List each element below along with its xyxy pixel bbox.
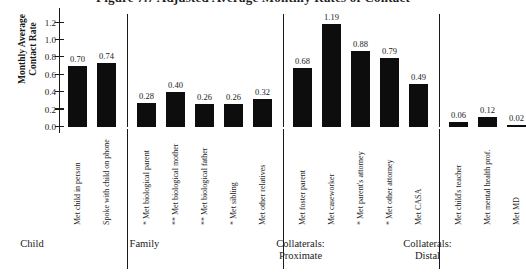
- group-caption: Collaterals: Distal: [368, 238, 488, 262]
- category-label: *Met other attorney: [385, 159, 394, 225]
- y-axis-tick-label: 1.0: [45, 35, 56, 45]
- category-label: Met MD: [512, 197, 521, 225]
- bar: [351, 51, 370, 127]
- significance-marker: *: [142, 221, 151, 225]
- bar-value-label: 0.06: [451, 110, 466, 120]
- significance-marker: **: [200, 217, 209, 225]
- bar: [166, 92, 185, 127]
- bar: [478, 117, 497, 127]
- bar: [293, 68, 312, 127]
- figure-title-strip: Figure 7.7 Adjusted Average Monthly Rate…: [0, 0, 512, 9]
- bar: [97, 63, 116, 127]
- category-label: **Met biological father: [200, 147, 209, 225]
- y-axis-tick-label: 0.6: [45, 70, 56, 80]
- category-label-text: Met biological mother: [171, 143, 180, 215]
- y-axis-tick: [55, 22, 64, 23]
- bar: [253, 99, 272, 127]
- bar-value-label: 0.49: [411, 72, 426, 82]
- category-label: *Met biological parent: [142, 150, 151, 225]
- group-separator: [127, 129, 128, 269]
- bar: [380, 58, 399, 127]
- y-axis-tick-label: 0.4: [45, 87, 56, 97]
- y-axis-tick: [55, 74, 64, 75]
- category-label-text: Met mental health prof.: [483, 149, 492, 225]
- category-label: **Met biological mother: [171, 143, 180, 225]
- group-caption: Family: [85, 238, 205, 250]
- bar-value-label: 1.19: [324, 12, 339, 22]
- significance-marker: *: [229, 221, 238, 225]
- y-axis-tick-label: 0.8: [45, 52, 56, 62]
- y-axis-label: Monthly Average Contact Rate: [17, 0, 39, 109]
- bar-value-label: 0.28: [139, 91, 154, 101]
- bar: [409, 84, 428, 127]
- bar-value-label: 0.32: [255, 87, 270, 97]
- bar: [68, 66, 87, 127]
- bar-value-label: 0.88: [353, 39, 368, 49]
- category-label: Met mental health prof.: [483, 149, 492, 225]
- y-axis-line: [59, 8, 60, 133]
- category-label-text: Met biological father: [200, 147, 209, 215]
- bar-value-label: 0.40: [168, 80, 183, 90]
- group-caption: Child: [0, 238, 92, 250]
- bar-value-label: 0.12: [480, 105, 495, 115]
- category-label-text: Met parent's attorney: [356, 151, 365, 219]
- category-label: Met foster parent: [298, 170, 307, 225]
- category-label: *Met parent's attorney: [356, 151, 365, 225]
- bar: [195, 104, 214, 127]
- group-separator: [127, 14, 128, 127]
- y-axis-tick-label: 0.0: [45, 122, 56, 132]
- bar-value-label: 0.79: [382, 46, 397, 56]
- bar-value-label: 0.68: [295, 56, 310, 66]
- bar-value-label: 0.26: [197, 92, 212, 102]
- category-label-text: Met MD: [512, 197, 521, 225]
- bar-value-label: 0.74: [99, 51, 114, 61]
- category-label: *Met sibling: [229, 182, 238, 225]
- bar-value-label: 0.70: [70, 54, 85, 64]
- significance-marker: **: [171, 217, 180, 225]
- group-separator: [283, 129, 284, 269]
- bar: [137, 103, 156, 127]
- group-caption: Collaterals: Proximate: [241, 238, 361, 262]
- bar: [507, 125, 526, 127]
- figure-title: Figure 7.7 Adjusted Average Monthly Rate…: [96, 0, 410, 6]
- category-label-text: Met child in person: [73, 163, 82, 225]
- category-label: Met other relatives: [258, 165, 267, 225]
- bar-value-label: 0.26: [226, 92, 241, 102]
- significance-marker: *: [356, 221, 365, 225]
- category-label: Met CASA: [414, 189, 423, 225]
- category-label-text: Met biological parent: [142, 150, 151, 219]
- y-axis-tick-label: 0.2: [45, 105, 56, 115]
- category-label-text: Spoke with child on phone: [102, 139, 111, 225]
- y-axis-tick: [55, 39, 64, 40]
- bar: [322, 24, 341, 127]
- category-label: Met caseworker: [327, 174, 336, 225]
- category-label: Spoke with child on phone: [102, 139, 111, 225]
- y-axis-tick-label: 1.2: [45, 18, 56, 28]
- category-label-text: Met foster parent: [298, 170, 307, 225]
- y-axis-tick: [55, 91, 64, 92]
- y-axis-tick: [55, 108, 64, 109]
- y-axis-tick: [55, 126, 64, 127]
- category-label-text: Met other relatives: [258, 165, 267, 225]
- group-separator: [439, 14, 440, 127]
- category-label: Met child's teacher: [454, 164, 463, 225]
- y-axis-tick: [55, 56, 64, 57]
- category-label-text: Met caseworker: [327, 174, 336, 225]
- category-label-text: Met CASA: [414, 189, 423, 225]
- group-separator: [283, 14, 284, 127]
- bar-value-label: 0.02: [509, 113, 524, 123]
- category-label: Met child in person: [73, 163, 82, 225]
- bar: [449, 122, 468, 127]
- category-label-text: Met child's teacher: [454, 164, 463, 225]
- group-separator: [439, 129, 440, 269]
- category-label-text: Met sibling: [229, 182, 238, 219]
- bar: [224, 104, 243, 127]
- significance-marker: *: [385, 221, 394, 225]
- category-label-text: Met other attorney: [385, 159, 394, 219]
